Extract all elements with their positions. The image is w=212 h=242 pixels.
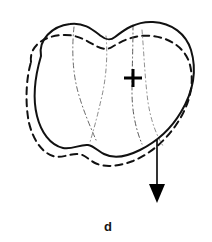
dashed-contour-path — [27, 35, 192, 166]
panel-label: d — [0, 219, 212, 235]
internal-division-line-centre — [90, 36, 107, 142]
cross-marker-icon — [124, 69, 142, 87]
organ-outline-diagram — [0, 0, 212, 242]
figure-panel: d — [0, 0, 212, 242]
panel-label-text: d — [104, 219, 112, 235]
internal-division-line-right-outer — [142, 30, 163, 146]
